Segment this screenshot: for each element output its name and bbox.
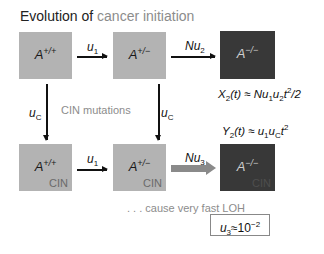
u3-estimate-box: u3≈10−2 — [210, 214, 270, 236]
equation-x2: X2(t) ≈ Nu1u2t2/2 — [218, 86, 301, 103]
title-highlight: cancer initiation — [97, 8, 194, 24]
genotype-label: A+/− — [113, 46, 166, 62]
cin-tag: CIN — [49, 177, 68, 189]
cin-tag: CIN — [143, 177, 162, 189]
box-bottom-heterozygous-cin: A+/− CIN — [113, 144, 166, 191]
box-bottom-homozygous-cin: A−/− CIN — [220, 144, 275, 191]
cin-mutations-label: CIN mutations — [61, 104, 131, 116]
arrow-nu2 — [171, 56, 215, 58]
genotype-label: A+/− — [113, 158, 166, 174]
cin-tag: CIN — [252, 177, 271, 189]
genotype-label: A+/+ — [19, 158, 72, 174]
rate-nu2: Nu2 — [185, 39, 205, 55]
equation-y2: Y2(t) ≈ u1uCt2 — [222, 123, 288, 140]
box-bottom-wildtype-cin: A+/+ CIN — [19, 144, 72, 191]
box-top-wildtype: A+/+ — [19, 32, 72, 79]
rate-uc-left: uC — [29, 106, 41, 122]
rate-uc-right: uC — [161, 106, 173, 122]
genotype-label: A−/− — [220, 45, 275, 61]
arrow-uc-left — [46, 84, 48, 140]
title-part1: Evolution of — [20, 8, 97, 24]
rate-u1-top: u1 — [87, 40, 98, 56]
slide-title: Evolution of cancer initiation — [20, 8, 194, 24]
genotype-label: A+/+ — [19, 46, 72, 62]
rate-nu3: Nu3 — [185, 151, 205, 167]
box-top-homozygous: A−/− — [220, 31, 275, 79]
box-top-heterozygous: A+/− — [113, 32, 166, 79]
genotype-label: A−/− — [220, 158, 275, 174]
arrow-u1-bottom — [77, 169, 107, 171]
arrow-uc-right — [158, 84, 160, 140]
rate-u1-bottom: u1 — [87, 152, 98, 168]
loh-note: . . . cause very fast LOH — [127, 202, 245, 214]
